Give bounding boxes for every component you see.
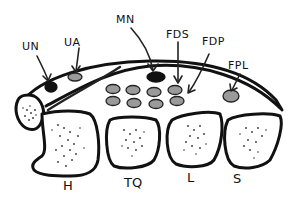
tendon	[106, 85, 120, 94]
tendon	[127, 99, 141, 108]
label-un: UN	[22, 40, 39, 53]
lunate-bone	[167, 112, 222, 166]
pisiform-bone	[16, 95, 44, 130]
label-tq: TQ	[123, 175, 142, 190]
ulnar-artery	[68, 73, 82, 81]
fpl-tendon	[223, 90, 239, 102]
flexor-tendon-group	[106, 85, 184, 109]
median-nerve	[147, 72, 165, 82]
tendon	[168, 86, 182, 95]
tendon	[126, 86, 140, 95]
label-h: H	[63, 178, 73, 193]
label-mn: MN	[116, 13, 135, 26]
tendon	[147, 88, 161, 97]
label-fdp: FDP	[202, 35, 225, 48]
label-fpl: FPL	[228, 59, 249, 72]
tendon	[106, 97, 120, 106]
carpal-tunnel-diagram: UN UA MN FDS FDP FPL H TQ L S	[0, 0, 298, 203]
label-l: L	[187, 170, 195, 185]
label-ua: UA	[64, 36, 81, 49]
label-s: S	[233, 171, 241, 186]
ulnar-nerve	[45, 82, 57, 92]
tendon	[149, 100, 163, 109]
scaphoid-bone	[225, 114, 282, 168]
arrow-fdp	[189, 54, 209, 92]
arrow-mn	[131, 28, 153, 70]
triquetrum-bone	[107, 117, 160, 168]
tendon	[170, 97, 184, 106]
label-fds: FDS	[166, 28, 189, 41]
